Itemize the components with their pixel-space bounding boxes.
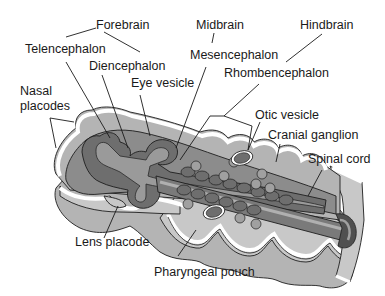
label-cranial-ganglion: Cranial ganglion <box>268 128 358 142</box>
label-rhombencephalon: Rhombencephalon <box>224 66 329 80</box>
label-eye-vesicle: Eye vesicle <box>131 76 194 90</box>
label-lens-placode: Lens placode <box>75 235 149 249</box>
label-forebrain: Forebrain <box>96 18 150 32</box>
label-spinal-cord: Spinal cord <box>308 152 371 166</box>
label-midbrain: Midbrain <box>196 18 244 32</box>
label-pharyngeal-pouch: Pharyngeal pouch <box>154 265 255 279</box>
label-diencephalon: Diencephalon <box>89 59 165 73</box>
label-nasal-placodes-line2: placodes <box>20 99 70 113</box>
embryo-neural-tube-diagram: Forebrain Telencephalon Diencephalon Eye… <box>0 0 385 296</box>
label-nasal-placodes-line1: Nasal <box>20 84 52 98</box>
label-hindbrain: Hindbrain <box>300 18 354 32</box>
label-mesencephalon: Mesencephalon <box>190 48 278 62</box>
label-telencephalon: Telencephalon <box>25 42 106 56</box>
label-otic-vesicle: Otic vesicle <box>255 108 319 122</box>
